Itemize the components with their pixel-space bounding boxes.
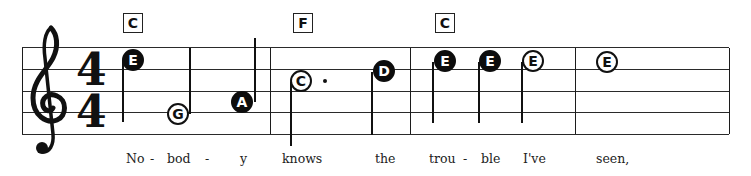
- note-stem: [189, 48, 191, 114]
- lyric-syllable: ble: [481, 151, 500, 166]
- staff-line-5: [22, 134, 729, 135]
- lyric-hyphen: -: [205, 151, 209, 166]
- augmentation-dot: [323, 79, 327, 83]
- note-stem: [254, 38, 256, 102]
- barline-3: [410, 48, 411, 134]
- lyric-syllable: trou: [429, 151, 456, 166]
- barline-4: [575, 48, 576, 134]
- note-head: A: [231, 91, 253, 113]
- lyric-syllable: the: [375, 151, 395, 166]
- barline-2: [270, 48, 271, 134]
- note-stem: [478, 62, 480, 123]
- lyric-hyphen: -: [463, 151, 467, 166]
- lyric-syllable: y: [240, 151, 247, 166]
- barline-start: [22, 48, 23, 134]
- barline-end: [729, 48, 730, 134]
- lyric-hyphen: -: [150, 151, 154, 166]
- note-stem: [521, 62, 523, 123]
- staff-line-1: [22, 47, 729, 48]
- staff-line-4: [22, 112, 729, 113]
- music-score: 4 4 C F C E G A C D E E E E No - bod - y…: [0, 0, 751, 176]
- staff-line-3: [22, 91, 729, 92]
- chord-symbol: F: [293, 13, 313, 33]
- lyric-syllable: bod: [167, 151, 191, 166]
- note-head: E: [596, 51, 618, 73]
- note-head: C: [290, 70, 312, 92]
- note-stem: [290, 82, 292, 146]
- note-head: E: [434, 50, 456, 72]
- note-head: E: [122, 49, 144, 71]
- lyric-syllable: I've: [523, 151, 546, 166]
- time-signature-bottom: 4: [76, 90, 107, 134]
- treble-clef-icon: [27, 24, 69, 160]
- note-head: D: [373, 60, 395, 82]
- lyric-syllable: No: [126, 151, 144, 166]
- lyric-syllable: knows: [282, 151, 322, 166]
- note-stem: [371, 72, 373, 135]
- note-head: E: [522, 50, 544, 72]
- note-stem: [432, 62, 434, 123]
- chord-symbol: C: [123, 13, 143, 33]
- note-head: E: [479, 50, 501, 72]
- note-head: G: [167, 103, 189, 125]
- chord-symbol: C: [435, 13, 455, 33]
- lyric-syllable: seen,: [596, 151, 629, 166]
- note-stem: [122, 60, 124, 122]
